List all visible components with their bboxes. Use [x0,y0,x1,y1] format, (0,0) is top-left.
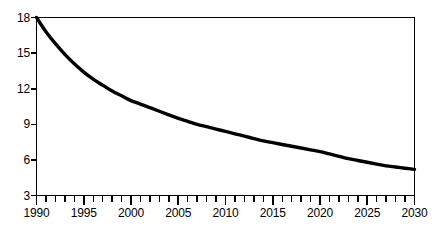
x-axis-tick-label: 2020 [300,207,340,219]
y-axis-tick-label: 15 [8,47,30,59]
y-axis-tick-label: 9 [8,118,30,130]
x-axis-ticks [37,196,415,205]
y-axis-tick-label: 18 [8,12,30,24]
chart-container: 369121518 199019952000200520102015202020… [0,0,439,235]
x-axis-tick-label: 2000 [111,207,151,219]
data-series-line [37,18,415,170]
x-axis-tick-label: 2025 [347,207,387,219]
y-axis-tick-label: 6 [8,154,30,166]
plot-frame [37,18,415,196]
y-axis-tick-label: 3 [8,190,30,202]
x-axis-tick-label: 2010 [206,207,246,219]
line-chart-plot [0,0,439,235]
x-axis-tick-label: 1990 [17,207,57,219]
y-axis-ticks [31,18,37,196]
x-axis-tick-label: 2015 [253,207,293,219]
x-axis-tick-label: 2005 [158,207,198,219]
y-axis-tick-label: 12 [8,83,30,95]
x-axis-tick-label: 1995 [64,207,104,219]
x-axis-tick-label: 2030 [395,207,435,219]
